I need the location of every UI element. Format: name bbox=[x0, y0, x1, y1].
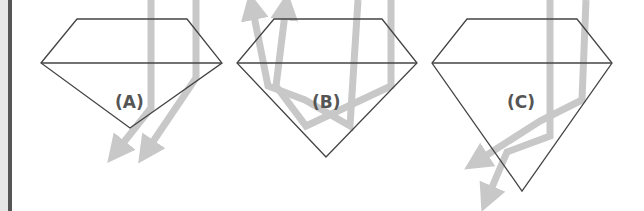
panel-a-rays bbox=[116, 0, 196, 152]
panel-c-label: (C) bbox=[507, 92, 535, 112]
panel-b-label: (B) bbox=[312, 92, 341, 112]
panel-a-label: (A) bbox=[115, 92, 144, 112]
